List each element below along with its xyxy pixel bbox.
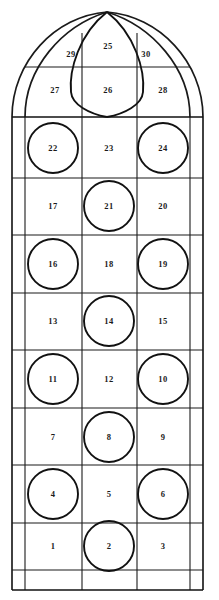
panel-number-24: 24 [158,144,167,153]
panel-number-4: 4 [51,490,56,499]
vesica-left-curve [71,12,107,117]
panel-number-15: 15 [158,317,167,326]
panel-number-11: 11 [49,375,58,384]
window-panel-diagram: 1234567891011121314151617181920212223242… [0,0,219,600]
panel-number-2: 2 [107,542,112,551]
panel-number-6: 6 [161,490,166,499]
panel-number-23: 23 [104,144,113,153]
vesica-right-curve [107,12,143,117]
panel-number-8: 8 [107,433,112,442]
panel-number-21: 21 [104,202,113,211]
panel-number-19: 19 [158,260,167,269]
panel-number-9: 9 [161,433,166,442]
panel-number-30: 30 [141,50,150,59]
panel-number-25: 25 [103,42,112,51]
inner-arch-right-curve [107,12,190,117]
panel-number-16: 16 [48,260,57,269]
inner-arch-left-curve [25,12,107,117]
panel-number-18: 18 [104,260,113,269]
panel-number-29: 29 [66,50,75,59]
panel-number-17: 17 [48,202,57,211]
panel-number-14: 14 [104,317,113,326]
panel-number-13: 13 [48,317,57,326]
panel-number-7: 7 [51,433,56,442]
panel-number-5: 5 [107,490,112,499]
panel-number-3: 3 [161,542,166,551]
panel-number-20: 20 [158,202,167,211]
panel-number-22: 22 [48,144,57,153]
panel-number-27: 27 [50,86,59,95]
panel-number-12: 12 [104,375,113,384]
panel-number-26: 26 [103,86,112,95]
panel-number-1: 1 [51,542,56,551]
panel-number-10: 10 [158,375,167,384]
panel-number-28: 28 [158,86,167,95]
